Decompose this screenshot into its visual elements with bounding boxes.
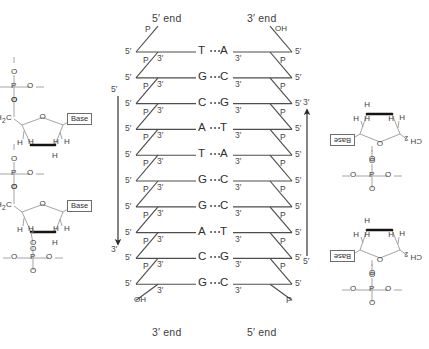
sugar-h-e-0: H [52, 151, 58, 160]
base-left-5: G [198, 173, 207, 185]
prime-5-left-3: 5′ [125, 123, 131, 133]
base-right-9: C [220, 276, 228, 288]
prime-3-right-6: 3′ [235, 208, 241, 218]
phosphate-left-1: P [143, 81, 149, 91]
prime-3-left-1: 3′ [157, 79, 163, 89]
right-terminus-hydroxyl: OH [275, 24, 287, 33]
prime-3-right-1: 3′ [235, 79, 241, 89]
prime-5-right-0: 5′ [295, 46, 301, 56]
inv-h-d-2: H [353, 114, 359, 123]
inv-ch2-sub-2: 2 [404, 135, 408, 142]
prime-5-left-6: 5′ [125, 201, 131, 211]
inv-ch2-sub-3: 2 [404, 251, 408, 258]
base-right-2: G [220, 96, 229, 108]
prime-5-left-1: 5′ [125, 72, 131, 82]
phosphate-o-dn-top-1: O [11, 182, 17, 191]
phosphate-right-6: P [280, 210, 286, 220]
sugar-h-a-1: H [17, 225, 23, 234]
prime-3-right-9: 3′ [235, 285, 241, 295]
right-arrow-start-label: 5′ [303, 256, 309, 266]
phosphate-right-2: P [280, 107, 286, 117]
phosphate-o-dn-inv-3: O [369, 298, 375, 307]
sugar-h-c-0: H [53, 137, 59, 146]
prime-3-left-6: 3′ [157, 208, 163, 218]
prime-5-left-7: 5′ [125, 227, 131, 237]
right-arrow-end-label: 3′ [303, 97, 309, 107]
ch2-c-0: C [6, 113, 12, 122]
left-arrow-end-label: 3′ [111, 244, 117, 254]
prime-3-left-9: 3′ [157, 285, 163, 295]
inv-h-b-3: H [388, 230, 394, 239]
inv-ch2-2: CH [410, 137, 422, 146]
prime-3-left-4: 3′ [157, 156, 163, 166]
phosphate-o-lt-bot-1: O [11, 252, 17, 261]
prime-3-right-3: 3′ [235, 130, 241, 140]
phosphate-o-rt-bot-1: O [46, 252, 52, 261]
phosphate-left-4: P [143, 158, 149, 168]
phosphate-right-3: P [280, 132, 286, 142]
prime-3-right-5: 3′ [235, 182, 241, 192]
base-left-2: C [198, 96, 206, 108]
inv-h-c-3: H [364, 230, 370, 239]
prime-5-right-1: 5′ [295, 72, 301, 82]
base-right-0: A [220, 44, 228, 56]
prime-3-left-0: 3′ [157, 53, 163, 63]
left-terminus-hydroxyl: OH [134, 295, 146, 304]
base-left-6: G [198, 199, 207, 211]
sugar-h-d-1: H [64, 224, 70, 233]
sugar-h-b-0: H [28, 137, 34, 146]
phosphate-left-2: P [143, 107, 149, 117]
prime-5-left-4: 5′ [125, 149, 131, 159]
base-right-4: A [220, 147, 228, 159]
inverted-nucleotide-3: OBaseHHHHHCH2 [322, 212, 422, 268]
prime-5-right-3: 5′ [295, 123, 301, 133]
base-right-3: T [220, 121, 227, 133]
inv-base-box-3: Base [330, 251, 355, 263]
inv-base-box-2: Base [330, 135, 355, 147]
inv-h-b-2: H [388, 114, 394, 123]
prime-3-right-2: 3′ [235, 105, 241, 115]
phosphate-o-rt-top-1: O [27, 168, 33, 177]
phosphate-left-6: P [143, 210, 149, 220]
phosphate-right-8: P [280, 261, 286, 271]
sugar-h-d-0: H [64, 137, 70, 146]
phosphate-right-4: P [280, 158, 286, 168]
phosphate-p-top-0: P [11, 81, 16, 90]
prime-3-right-4: 3′ [235, 156, 241, 166]
inv-ring-oxygen-3: O [377, 255, 383, 264]
sugar-h-b-1: H [28, 224, 34, 233]
dna-diagram: 5′ end 3′ end 3′ end 5′ end T⋯A5′3′3′5′P… [0, 0, 429, 349]
phosphate-o-lt-inv-3: O [350, 284, 356, 293]
sugar-h-e-1: H [52, 238, 58, 247]
phosphate-p-top-1: P [11, 168, 16, 177]
phosphate-p-bot-1: P [30, 252, 35, 261]
inv-h-e-3: H [364, 216, 370, 225]
base-left-0: T [198, 44, 205, 56]
base-right-6: C [220, 199, 228, 211]
base-left-4: T [198, 147, 205, 159]
phosphate-o-dn-inv-2: O [369, 184, 375, 193]
left-arrow-start-label: 5′ [111, 84, 117, 94]
base-left-9: G [198, 276, 207, 288]
prime-5-right-2: 5′ [295, 98, 301, 108]
phosphate-o-rt-inv-2: O [385, 170, 391, 179]
phosphate-p-inv-2: P [369, 170, 374, 179]
prime-5-right-9: 5′ [295, 278, 301, 288]
right-terminus-phosphate: P [286, 295, 292, 305]
ring-oxygen-1: O [40, 199, 46, 208]
base-right-1: C [220, 70, 228, 82]
prime-5-right-4: 5′ [295, 149, 301, 159]
prime-3-left-3: 3′ [157, 130, 163, 140]
base-right-8: G [220, 250, 229, 262]
sugar-h-a-0: H [17, 138, 23, 147]
prime-3-left-8: 3′ [157, 259, 163, 269]
phosphate-left-8: P [143, 261, 149, 271]
prime-3-left-5: 3′ [157, 182, 163, 192]
base-left-3: A [198, 121, 206, 133]
prime-3-right-8: 3′ [235, 259, 241, 269]
phosphate-left-3: P [143, 132, 149, 142]
phosphate-o-up-top-1: O [11, 154, 17, 163]
prime-5-left-2: 5′ [125, 98, 131, 108]
phosphate-o-up-inv-3: O [369, 270, 375, 279]
ch2-c-1: C [6, 200, 12, 209]
